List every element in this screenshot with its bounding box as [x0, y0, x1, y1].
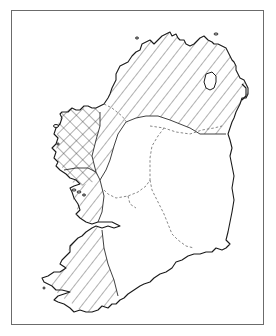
island-aran-1 [72, 189, 76, 191]
region-west [56, 106, 100, 188]
dashed-boundary-minor [128, 196, 136, 208]
island-aran-2 [77, 191, 81, 193]
island-clare [57, 143, 59, 145]
island-skellig [43, 287, 45, 289]
island-achill [54, 125, 59, 128]
region-north [104, 32, 248, 134]
island-tory [136, 37, 139, 39]
lough-neagh-icon [204, 72, 216, 90]
dashed-boundary-munster-leinster [150, 180, 194, 248]
ireland-map [0, 0, 276, 336]
region-southwest [46, 226, 118, 312]
island-aran-3 [83, 194, 86, 196]
island-rathlin [214, 33, 218, 35]
